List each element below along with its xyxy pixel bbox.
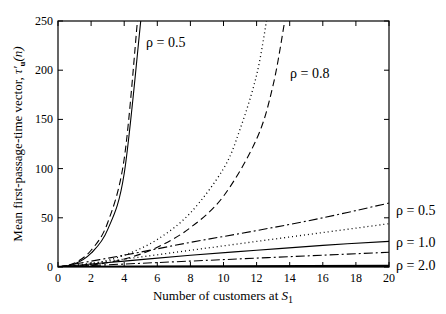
x-tick-label: 2 bbox=[88, 271, 94, 285]
x-tick-label: 18 bbox=[350, 271, 362, 285]
series-labels: ρ = 0.5 ρ = 0.8 ρ = 0.5 ρ = 1.0 ρ = 2.0 bbox=[146, 35, 435, 273]
series-line-0 bbox=[58, 21, 141, 267]
x-tick-label: 0 bbox=[55, 271, 61, 285]
y-tick-label: 200 bbox=[35, 63, 53, 77]
series-line-1 bbox=[58, 21, 137, 267]
y-tick-label: 100 bbox=[35, 162, 53, 176]
series-line-3 bbox=[58, 21, 285, 267]
series-line-8 bbox=[58, 266, 389, 267]
y-tick-label: 50 bbox=[41, 211, 53, 225]
y-tick-label: 150 bbox=[35, 112, 53, 126]
label-rho-08: ρ = 0.8 bbox=[290, 66, 329, 81]
x-tick-label: 6 bbox=[154, 271, 160, 285]
chart: 02468101214161820050100150200250 ρ = 0.5… bbox=[0, 0, 446, 314]
label-rho-05-right: ρ = 0.5 bbox=[396, 203, 435, 218]
x-tick-label: 12 bbox=[251, 271, 263, 285]
label-rho-20: ρ = 2.0 bbox=[396, 258, 435, 273]
x-tick-label: 4 bbox=[121, 271, 127, 285]
y-tick-label: 0 bbox=[47, 260, 53, 274]
x-tick-label: 10 bbox=[218, 271, 230, 285]
x-tick-label: 14 bbox=[284, 271, 296, 285]
series-line-4 bbox=[58, 203, 389, 267]
data-series bbox=[58, 21, 389, 267]
y-tick-label: 250 bbox=[35, 14, 53, 28]
y-axis-label: Mean first-passage-time vector, τ'u(n) bbox=[10, 46, 27, 241]
series-line-2 bbox=[58, 21, 267, 267]
label-rho-10: ρ = 1.0 bbox=[396, 235, 435, 250]
label-rho-05-top: ρ = 0.5 bbox=[146, 35, 185, 50]
x-axis-label: Number of customers at S1 bbox=[153, 288, 293, 305]
x-tick-label: 8 bbox=[187, 271, 193, 285]
x-tick-label: 20 bbox=[383, 271, 395, 285]
x-tick-label: 16 bbox=[317, 271, 329, 285]
